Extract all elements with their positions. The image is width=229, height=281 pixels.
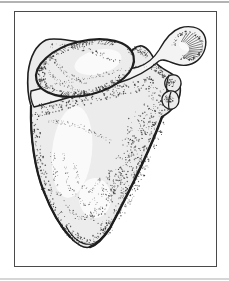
body-highlight-lower	[79, 178, 111, 218]
scapula-illustration	[0, 0, 229, 281]
page	[0, 0, 229, 281]
